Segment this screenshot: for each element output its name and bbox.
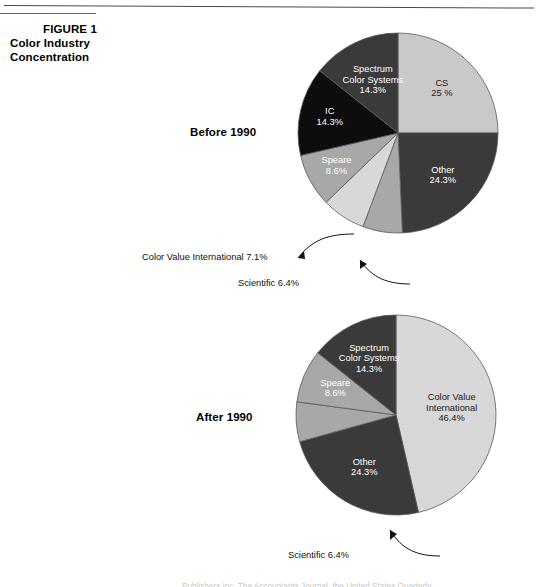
callout-color-value-international-before: Color Value International 7.1%	[142, 252, 267, 262]
leader-arrowhead	[360, 260, 367, 269]
callout-scientific-after: Scientific 6.4%	[288, 550, 349, 560]
header-rule-long	[4, 5, 534, 9]
figure-title-line-1: Color Industry	[10, 36, 130, 50]
pie-group-label-before: Before 1990	[190, 126, 256, 138]
pie-slice-label: Speare8.6%	[321, 156, 351, 176]
pie-after-slices	[296, 315, 496, 515]
footer-text: Publishers Inc. The Accountants Journal,…	[182, 579, 532, 587]
pie-slice-label: Other24.3%	[351, 458, 377, 478]
pie-chart-before-1990: CS25 %Other24.3%Speare8.6%IC14.3%Spectru…	[295, 30, 501, 236]
leader-path	[390, 530, 440, 556]
header-rule-short	[0, 13, 96, 14]
callout-scientific-before: Scientific 6.4%	[238, 278, 299, 288]
leader-arrowhead	[390, 530, 397, 540]
figure-caption: FIGURE 1 Color Industry Concentration	[10, 22, 130, 64]
pie-slice-label: Speare8.6%	[320, 378, 350, 398]
pie-chart-after-1990: Color ValueInternational46.4%Other24.3%S…	[293, 309, 499, 521]
pie-before-svg: CS25 %Other24.3%Speare8.6%IC14.3%Spectru…	[295, 30, 501, 236]
leader-line-scientific-after	[360, 520, 446, 564]
figure-number: FIGURE 1	[10, 22, 130, 36]
figure-page: FIGURE 1 Color Industry Concentration Be…	[0, 0, 536, 587]
pie-before-slices	[298, 33, 498, 233]
leader-path	[360, 260, 410, 284]
leader-line-scientific-before	[332, 250, 414, 292]
figure-title-line-2: Concentration	[10, 50, 130, 64]
pie-slice-label: Other24.3%	[430, 165, 456, 185]
leader-arrowhead	[298, 251, 305, 259]
pie-group-label-after: After 1990	[196, 411, 253, 423]
pie-after-svg: Color ValueInternational46.4%Other24.3%S…	[293, 309, 499, 521]
leader-path	[298, 234, 354, 258]
